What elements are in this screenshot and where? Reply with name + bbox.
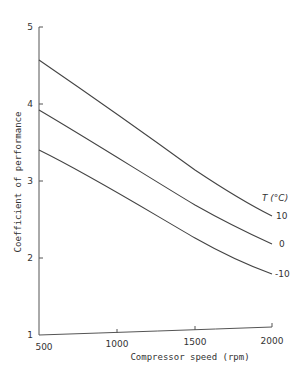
legend-label-0: 0 (279, 239, 285, 249)
y-tick-2: 2 (27, 253, 33, 263)
y-tick-1: 1 (27, 330, 33, 340)
y-axis-label: Coefficient of performance (13, 112, 23, 253)
curve-0c (39, 110, 272, 244)
legend-label-m10: -10 (275, 269, 290, 279)
x-axis-label: Compressor speed (rpm) (130, 352, 249, 362)
curve-m10c (39, 150, 272, 274)
x-tick-1500: 1500 (184, 337, 207, 347)
x-tick-2000: 2000 (261, 336, 284, 346)
legend-label-10: 10 (276, 211, 288, 221)
curve-10c (39, 60, 272, 216)
legend-title: T (°C) (262, 193, 288, 203)
y-tick-5: 5 (27, 22, 33, 32)
x-axis (39, 327, 272, 335)
y-tick-3: 3 (27, 176, 33, 186)
x-tick-500: 500 (35, 342, 52, 352)
cop-chart: 5 4 3 2 1 500 1000 1500 2000 Compressor … (0, 0, 298, 379)
x-tick-1000: 1000 (106, 339, 129, 349)
y-tick-4: 4 (27, 99, 33, 109)
